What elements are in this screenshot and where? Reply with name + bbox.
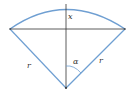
- height-label: x: [68, 12, 73, 21]
- angle-label: α: [73, 57, 79, 66]
- right-endpoint: [124, 28, 126, 30]
- left-radius-label: r: [27, 61, 32, 70]
- left-endpoint: [9, 28, 11, 30]
- left-radius-line: [10, 29, 66, 88]
- sector-diagram: x α r r: [0, 0, 132, 91]
- right-radius-label: r: [99, 56, 104, 65]
- angle-arc: [66, 66, 81, 73]
- apex-point: [65, 87, 67, 89]
